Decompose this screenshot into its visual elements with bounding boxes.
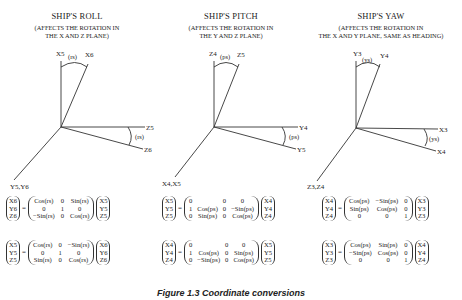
- equation-2: X4Y4Z4 = 000 1Cos(ps)0Sin(ps) 0−Sin(ps)0…: [162, 240, 275, 265]
- lhs-vector: X4Y4Z4: [162, 240, 176, 265]
- axis-label-up-a: Z4: [209, 50, 217, 58]
- panel-pitch: SHIP'S PITCH (AFFECTS THE ROTATION IN TH…: [154, 0, 308, 280]
- rhs-vector: X5Y5Z5: [96, 196, 110, 221]
- equals-sign: =: [22, 249, 26, 257]
- equals-sign: =: [338, 249, 342, 257]
- angle-label-up: (ys): [362, 56, 372, 64]
- panel-roll: SHIP'S ROLL (AFFECTS THE ROTATION IN THE…: [0, 0, 154, 280]
- equation-1: X4Y4Z4 = Cos(ps)−Sin(ps)0 Sin(ps)Cos(ps)…: [322, 196, 429, 221]
- axis-label-up-a: Y3: [353, 50, 362, 58]
- rhs-vector: X5Y5Z5: [261, 240, 275, 265]
- axis-label-down: Y5,Y6: [10, 183, 29, 191]
- angle-label-right: (ps): [289, 133, 299, 141]
- rotation-matrix: Cos(rs)0Sin(rs) 010 −Sin(rs)0Cos(rs): [28, 196, 94, 221]
- rotation-matrix: Cos(ps)Sin(ps)0 −Sin(ps)Cos(ps)0 001: [344, 240, 413, 265]
- axis-label-right-b: Z6: [144, 146, 152, 154]
- axis-label-up-b: Y4: [380, 52, 389, 60]
- equals-sign: =: [178, 205, 182, 213]
- axes-diagram: X5 X6 (rs) Z5 Z6 (rs) Y5,Y6: [0, 0, 160, 200]
- equation-2: X5Y5Z5 = Cos(rs)0−Sin(rs) 010 Sin(rs)0Co…: [6, 240, 110, 265]
- lhs-vector: X3Y3Z3: [322, 240, 336, 265]
- axis-label-right-a: X3: [439, 126, 448, 134]
- rotation-matrix: Cos(rs)0−Sin(rs) 010 Sin(rs)0Cos(rs): [28, 240, 94, 265]
- rhs-vector: X4Y4Z4: [415, 240, 429, 265]
- angle-label-right: (ys): [429, 135, 439, 143]
- lhs-vector: X5Y5Z5: [6, 240, 20, 265]
- figure-caption: Figure 1.3 Coordinate conversions: [0, 288, 462, 298]
- axis-label-down: X4,X5: [162, 180, 181, 188]
- equals-sign: =: [338, 205, 342, 213]
- panel-yaw: SHIP'S YAW (AFFECTS THE ROTATION IN THE …: [300, 0, 462, 280]
- axis-label-up-a: X5: [56, 50, 65, 58]
- angle-label-up: (rs): [68, 53, 77, 61]
- axis-label-up-b: X6: [85, 51, 94, 59]
- rhs-vector: X6Y6Z6: [96, 240, 110, 265]
- lhs-vector: X6Y6Z6: [6, 196, 20, 221]
- axes-diagram: Y3 Y4 (ys) X3 X4 (ys) Z3,Z4: [300, 0, 462, 200]
- axis-label-down: Z3,Z4: [307, 183, 325, 191]
- lhs-vector: X4Y4Z4: [322, 196, 336, 221]
- equation-2: X3Y3Z3 = Cos(ps)Sin(ps)0 −Sin(ps)Cos(ps)…: [322, 240, 429, 265]
- angle-label-up: (ps): [220, 53, 230, 61]
- rotation-matrix: Cos(ps)−Sin(ps)0 Sin(ps)Cos(ps)0 001: [344, 196, 413, 221]
- rhs-vector: X3Y3Z3: [415, 196, 429, 221]
- equation-1: X5Y5Z5 = 000 1Cos(ps)0−Sin(ps) 0Sin(ps)0…: [162, 196, 275, 221]
- angle-label-right: (rs): [135, 133, 144, 141]
- rotation-matrix: 000 1Cos(ps)0Sin(ps) 0−Sin(ps)0Cos(ps): [184, 240, 259, 265]
- equals-sign: =: [22, 205, 26, 213]
- rhs-vector: X4Y4Z4: [261, 196, 275, 221]
- rotation-matrix: 000 1Cos(ps)0−Sin(ps) 0Sin(ps)0Cos(ps): [184, 196, 259, 221]
- lhs-vector: X5Y5Z5: [162, 196, 176, 221]
- axis-label-up-b: Z5: [237, 51, 245, 59]
- equation-1: X6Y6Z6 = Cos(rs)0Sin(rs) 010 −Sin(rs)0Co…: [6, 196, 110, 221]
- equals-sign: =: [178, 249, 182, 257]
- axis-label-right-b: X4: [437, 148, 446, 156]
